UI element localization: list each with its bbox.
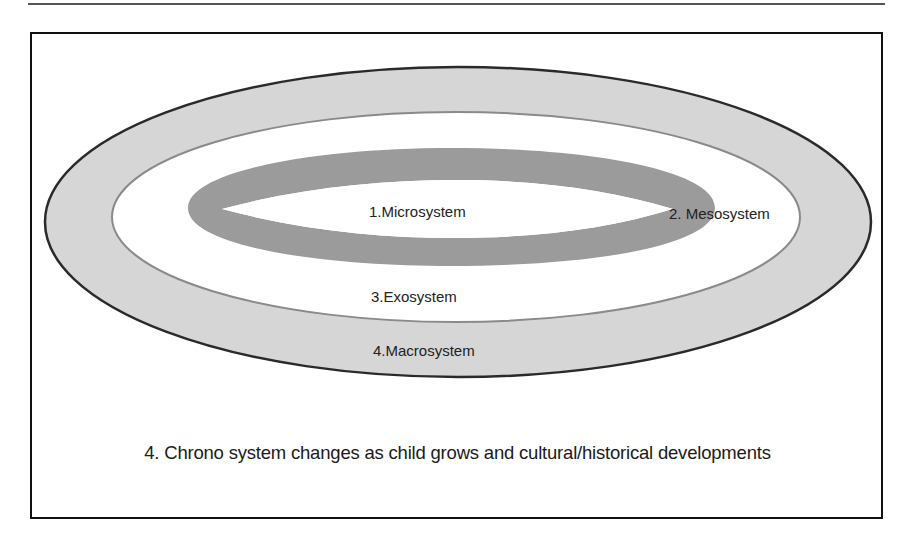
chronosystem-caption: 4. Chrono system changes as child grows … <box>0 442 915 464</box>
mesosystem-label: 2. Mesosystem <box>669 205 770 222</box>
macrosystem-label: 4.Macrosystem <box>373 342 475 359</box>
ecological-systems-diagram <box>0 0 915 547</box>
microsystem-label: 1.Microsystem <box>369 203 466 220</box>
exosystem-label: 3.Exosystem <box>371 288 457 305</box>
